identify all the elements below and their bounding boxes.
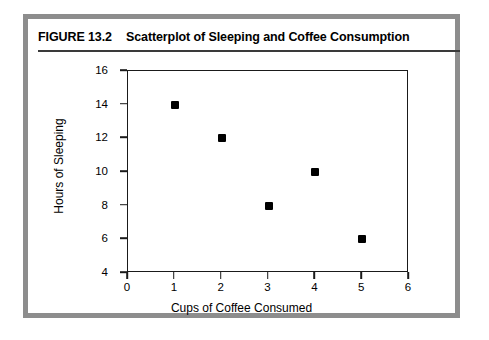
y-tick-label-6: 6 [42,232,112,244]
figure-inner-panel: FIGURE 13.2Scatterplot of Sleeping and C… [28,19,455,313]
title-divider [38,50,460,52]
data-point [265,202,273,210]
x-tick-0 [126,272,128,279]
data-point [311,168,319,176]
x-tick-1 [173,272,175,279]
x-tick-label-5: 5 [341,281,381,293]
y-tick-6 [120,238,127,240]
x-tick-label-2: 2 [201,281,241,293]
figure-caption: FIGURE 13.2Scatterplot of Sleeping and C… [38,27,458,47]
y-tick-label-16: 16 [42,64,112,76]
data-point [218,134,226,142]
y-tick-16 [120,69,127,71]
x-tick-label-3: 3 [248,281,288,293]
page-title: Scatterplot of Sleeping and Coffee Consu… [126,30,410,44]
data-point [171,101,179,109]
y-tick-8 [120,204,127,206]
y-tick-label-14: 14 [42,98,112,110]
x-tick-2 [220,272,222,279]
x-tick-6 [407,272,409,279]
x-tick-5 [360,272,362,279]
chart-plot-area: Hours of Sleeping Cups of Coffee Consume… [28,55,455,313]
y-tick-label-12: 12 [42,131,112,143]
x-tick-3 [267,272,269,279]
x-tick-label-1: 1 [154,281,194,293]
x-axis-title: Cups of Coffee Consumed [28,301,455,315]
plot-frame [127,70,408,272]
x-tick-label-0: 0 [107,281,147,293]
y-tick-label-8: 8 [42,199,112,211]
figure-frame: FIGURE 13.2Scatterplot of Sleeping and C… [23,14,460,318]
y-tick-label-10: 10 [42,165,112,177]
y-tick-10 [120,170,127,172]
y-tick-12 [120,137,127,139]
data-point [358,235,366,243]
x-tick-4 [314,272,316,279]
x-tick-label-6: 6 [388,281,428,293]
y-tick-14 [120,103,127,105]
figure-number: FIGURE 13.2 [38,30,112,44]
x-tick-label-4: 4 [294,281,334,293]
y-tick-label-4: 4 [42,266,112,278]
